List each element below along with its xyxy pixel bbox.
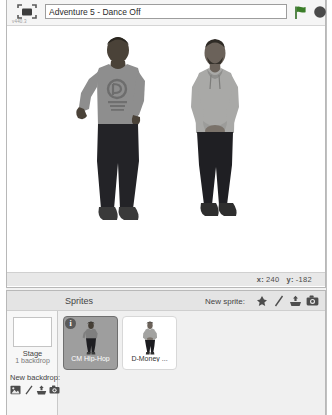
right-rail [326,0,332,415]
stage-selector[interactable]: Stage 1 backdrop New backdrop: [7,311,58,415]
stage-toolbar: v440.3 [7,0,325,26]
stage-coordinate-bar: x:240y:-182 [7,272,325,286]
choose-backdrop-from-library-icon[interactable] [10,384,21,395]
new-backdrop-label: New backdrop: [10,373,60,382]
project-title-input[interactable] [45,4,287,19]
sprites-title: Sprites [65,296,93,306]
x-axis-label: x: [257,275,264,284]
sprite-thumbnail [122,317,177,355]
sprite-list: i CM Hip-Hop [59,311,325,415]
version-label: v440.3 [12,19,27,24]
upload-sprite-from-file-icon[interactable] [289,294,302,307]
y-axis-label: y: [287,275,294,284]
paint-new-sprite-icon[interactable] [272,294,285,307]
y-value: -182 [296,275,312,284]
stage-canvas[interactable] [7,26,325,272]
stage-sprite-cm-hip-hop[interactable] [69,31,165,229]
stage-backdrop-thumbnail[interactable] [13,317,52,347]
new-sprite-icon-group [255,294,319,307]
sprite-info-badge-icon[interactable]: i [65,318,76,329]
x-value: 240 [266,275,279,284]
stage-panel: v440.3 [6,0,326,288]
choose-sprite-from-library-icon[interactable] [255,294,268,307]
sprite-label: D-Money ... [122,355,177,362]
stage-sprite-d-money[interactable] [179,33,251,225]
green-flag-icon[interactable] [292,4,308,20]
sprite-pane-header: Sprites New sprite: [7,291,325,311]
coordinate-readout: x:240y:-182 [257,275,319,284]
paint-new-backdrop-icon[interactable] [23,384,34,395]
new-sprite-from-camera-icon[interactable] [306,294,319,307]
sprite-label: CM Hip-Hop [63,355,118,362]
sprite-pane: Sprites New sprite: [6,290,326,415]
sprite-list-item-d-money[interactable]: D-Money ... [122,316,177,370]
new-sprite-label: New sprite: [205,297,245,306]
new-backdrop-icon-group [10,384,60,395]
upload-backdrop-from-file-icon[interactable] [36,384,47,395]
stage-backdrop-count: 1 backdrop [7,357,58,364]
sprite-list-item-cm-hip-hop[interactable]: i CM Hip-Hop [63,316,118,370]
scratch-editor-window: v440.3 [0,0,332,415]
